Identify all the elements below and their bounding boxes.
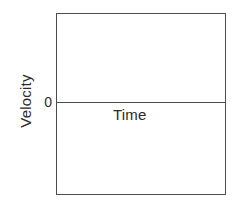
velocity-time-chart: 0 Velocity Time bbox=[0, 0, 238, 208]
y-axis-zero-tick-label: 0 bbox=[38, 93, 52, 111]
zero-velocity-axis-line bbox=[56, 102, 226, 103]
y-axis-title-text: Velocity bbox=[17, 74, 34, 127]
x-axis-title: Time bbox=[113, 106, 147, 123]
plot-frame bbox=[56, 13, 226, 195]
